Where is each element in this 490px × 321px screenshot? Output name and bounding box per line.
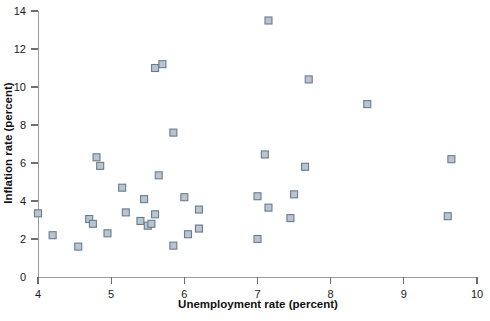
data-point-marker (97, 162, 104, 169)
data-point-marker (265, 204, 272, 211)
y-tick-label: 0 (20, 271, 26, 283)
data-point-marker (159, 61, 166, 68)
scatter-plot-canvas: 02468101214 45678910 Unemployment rate (… (0, 0, 490, 321)
data-point-marker (195, 206, 202, 213)
data-point-marker (305, 76, 312, 83)
data-point-marker (254, 193, 261, 200)
data-point-marker (184, 231, 191, 238)
data-point-marker (155, 172, 162, 179)
data-point-marker (141, 196, 148, 203)
y-tick-label: 2 (20, 233, 26, 245)
data-point-marker (170, 129, 177, 136)
data-point-marker (93, 154, 100, 161)
data-point-marker (170, 242, 177, 249)
data-point-marker (291, 191, 298, 198)
data-point-marker (254, 236, 261, 243)
y-tick-label: 4 (20, 195, 26, 207)
y-tick-label: 8 (20, 119, 26, 131)
y-tick-label: 12 (14, 43, 26, 55)
data-point-marker (148, 220, 155, 227)
data-point-marker (287, 215, 294, 222)
y-axis-title: Inflation rate (percent) (2, 82, 14, 204)
data-point-marker (261, 151, 268, 158)
unemployment-rate-axis: 45678910 (35, 277, 483, 300)
inflation-rate-axis: 02468101214 (14, 5, 38, 283)
data-point-marker (89, 220, 96, 227)
data-point-marker (49, 232, 56, 239)
data-point-marker (104, 230, 111, 237)
x-tick-label: 4 (35, 288, 41, 300)
data-point-marker (152, 211, 159, 218)
data-point-marker (152, 65, 159, 72)
data-point-marker (364, 101, 371, 108)
scatter-plot-figure: 02468101214 45678910 Unemployment rate (… (0, 0, 490, 321)
x-tick-label: 5 (108, 288, 114, 300)
data-point-marker (444, 213, 451, 220)
y-tick-label: 10 (14, 81, 26, 93)
data-point-marker (302, 163, 309, 170)
x-axis-title: Unemployment rate (percent) (178, 298, 338, 310)
data-point-marker (195, 225, 202, 232)
data-point-marker (119, 184, 126, 191)
data-point-marker (75, 243, 82, 250)
data-point-marker (35, 210, 42, 217)
data-points-layer (35, 17, 455, 250)
data-point-marker (181, 194, 188, 201)
x-tick-label: 10 (471, 288, 483, 300)
x-tick-label: 9 (401, 288, 407, 300)
data-point-marker (137, 217, 144, 224)
data-point-marker (122, 209, 129, 216)
data-point-marker (265, 17, 272, 24)
data-point-marker (448, 156, 455, 163)
y-tick-label: 14 (14, 5, 26, 17)
y-tick-label: 6 (20, 157, 26, 169)
